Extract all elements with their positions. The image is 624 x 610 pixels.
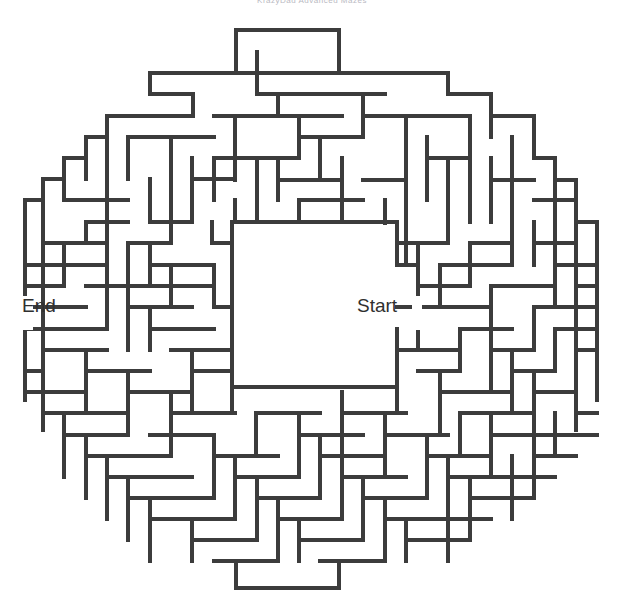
end-label: End: [22, 295, 56, 316]
start-label: Start: [357, 295, 398, 316]
maze-svg: Start End: [0, 0, 624, 610]
maze-canvas: Start End: [0, 0, 624, 610]
maze-walls-group: [23, 30, 597, 588]
maze-opening: [412, 296, 422, 330]
